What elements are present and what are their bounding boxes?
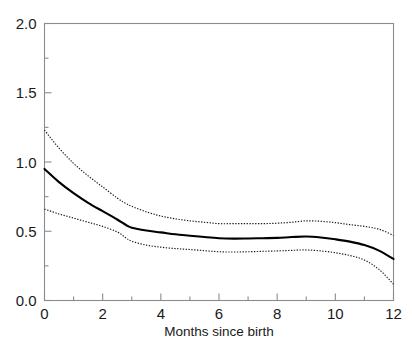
- x-tick-label: 2: [98, 305, 106, 322]
- series-line-lower-confidence-band: [45, 209, 394, 284]
- x-tick-label: 6: [215, 305, 223, 322]
- x-axis-tick-labels: 024681012: [40, 305, 402, 322]
- chart-figure: 024681012 0.00.51.01.52.0 Months since b…: [0, 0, 412, 356]
- chart-plot-area: 024681012 0.00.51.01.52.0 Months since b…: [0, 0, 412, 356]
- x-tick-label: 0: [40, 305, 48, 322]
- y-tick-label: 1.0: [16, 154, 37, 171]
- x-tick-label: 4: [157, 305, 165, 322]
- x-tick-label: 10: [327, 305, 344, 322]
- y-tick-label: 1.5: [16, 84, 37, 101]
- x-tick-label: 12: [385, 305, 402, 322]
- y-axis-ticks: [45, 24, 52, 301]
- plot-frame: [45, 24, 394, 301]
- series-line-upper-confidence-band: [45, 130, 394, 235]
- x-axis-title: Months since birth: [164, 324, 274, 339]
- y-tick-label: 0.5: [16, 223, 37, 240]
- data-series-group: [45, 130, 394, 284]
- plot-frame-rect: [45, 24, 394, 301]
- x-axis-ticks: [45, 294, 394, 301]
- y-tick-label: 2.0: [16, 15, 37, 32]
- y-axis-tick-labels: 0.00.51.01.52.0: [16, 15, 37, 309]
- y-tick-label: 0.0: [16, 292, 37, 309]
- x-tick-label: 8: [273, 305, 281, 322]
